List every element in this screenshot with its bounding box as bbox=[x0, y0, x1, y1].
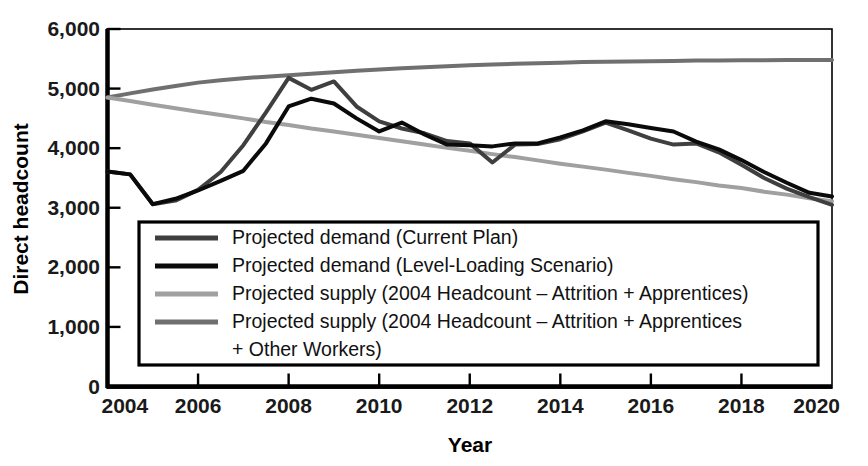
y-tick-label: 0 bbox=[88, 375, 100, 398]
x-tick-label: 2010 bbox=[356, 394, 403, 417]
y-tick-label: 2,000 bbox=[47, 255, 100, 278]
legend-label: Projected demand (Level-Loading Scenario… bbox=[232, 254, 614, 276]
chart-figure: 01,0002,0003,0004,0005,0006,000 20042006… bbox=[0, 0, 868, 466]
y-tick-label: 1,000 bbox=[47, 315, 100, 338]
y-tick-label: 4,000 bbox=[47, 136, 100, 159]
x-tick-label: 2020 bbox=[793, 394, 840, 417]
x-axis-tick-labels: 200420062008201020122014201620182020 bbox=[102, 394, 841, 417]
x-tick-label: 2004 bbox=[102, 394, 149, 417]
x-tick-label: 2016 bbox=[628, 394, 675, 417]
legend-label: + Other Workers) bbox=[232, 338, 382, 360]
x-tick-label: 2014 bbox=[537, 394, 584, 417]
legend-label: Projected demand (Current Plan) bbox=[232, 226, 518, 248]
y-axis-title: Direct headcount bbox=[9, 123, 32, 295]
x-tick-label: 2006 bbox=[175, 394, 222, 417]
y-tick-label: 6,000 bbox=[47, 17, 100, 40]
legend-label: Projected supply (2004 Headcount – Attri… bbox=[232, 310, 742, 332]
x-tick-label: 2012 bbox=[446, 394, 493, 417]
y-tick-label: 5,000 bbox=[47, 77, 100, 100]
legend-label: Projected supply (2004 Headcount – Attri… bbox=[232, 282, 749, 304]
x-axis-title: Year bbox=[448, 433, 492, 456]
y-tick-label: 3,000 bbox=[47, 196, 100, 219]
headcount-line-chart: 01,0002,0003,0004,0005,0006,000 20042006… bbox=[0, 0, 868, 466]
chart-legend: Projected demand (Current Plan)Projected… bbox=[139, 222, 818, 365]
x-tick-label: 2018 bbox=[718, 394, 765, 417]
x-tick-label: 2008 bbox=[265, 394, 312, 417]
y-axis-tick-labels: 01,0002,0003,0004,0005,0006,000 bbox=[47, 17, 100, 398]
